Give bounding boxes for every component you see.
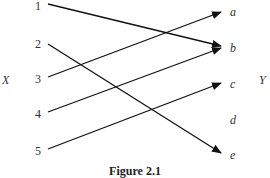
domain-set-label: X [2,74,9,86]
arrow-3-to-a [48,12,221,77]
arrow-2-to-e [48,44,221,153]
codomain-element-b: b [230,42,236,54]
arrow-4-to-b [48,48,221,112]
domain-element-3: 3 [35,73,41,85]
codomain-element-a: a [230,6,236,18]
codomain-set-label: Y [259,74,266,86]
arrow-1-to-b [48,4,221,46]
domain-element-1: 1 [35,0,41,12]
codomain-element-c: c [230,78,235,90]
figure-caption: Figure 2.1 [0,164,270,178]
codomain-element-d: d [230,114,236,126]
arrow-5-to-c [48,83,221,149]
domain-element-5: 5 [35,145,41,157]
codomain-element-e: e [230,149,235,161]
domain-element-4: 4 [35,108,41,120]
domain-element-2: 2 [35,38,41,50]
mapping-diagram: X Y 1 2 3 4 5 a b c d e Figure 2.1 [0,0,270,178]
